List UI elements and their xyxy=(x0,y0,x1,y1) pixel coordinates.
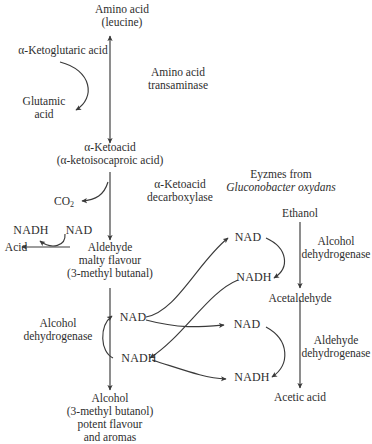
cofactor-nad-alcohol-branch: NAD xyxy=(120,311,147,324)
annotation-enzyme-source: Eyzmes from Gluconobacter oxydans xyxy=(206,168,356,194)
link-ethanol-nadh-to-left-nadh xyxy=(150,280,238,358)
metabolite-ketoglutaric-acid: α-Ketoglutaric acid xyxy=(18,44,107,57)
pathway-diagram: Amino acid (leucine) α-Ketoglutaric acid… xyxy=(0,0,372,444)
metabolite-glutamic-acid: Glutamic acid xyxy=(4,95,84,121)
cofactor-nadh-acetaldehyde-branch: NADH xyxy=(234,371,269,384)
metabolite-amino-acid: Amino acid (leucine) xyxy=(67,3,177,29)
metabolite-carbon-dioxide: CO2 xyxy=(54,195,74,210)
metabolite-aldehyde: Aldehyde malty flavour (3-methyl butanal… xyxy=(45,241,175,280)
cofactor-nad-acid-branch: NAD xyxy=(66,224,93,237)
link-left-nad-to-acetaldehyde-nad xyxy=(146,320,224,327)
enzyme-alcohol-dehydrogenase-right: Alcohol dehydrogenase xyxy=(300,235,372,261)
cofactor-nadh-alcohol-branch: NADH xyxy=(121,352,156,365)
cofactor-nad-acetaldehyde-branch: NAD xyxy=(234,318,261,331)
link-left-nadh-to-acetaldehyde-nadh xyxy=(152,360,226,379)
cofactor-nadh-acid-branch: NADH xyxy=(13,224,48,237)
arrow-co2-release xyxy=(82,182,108,201)
enzyme-amino-acid-transaminase: Amino acid transaminase xyxy=(126,66,230,92)
metabolite-acetaldehyde: Acetaldehyde xyxy=(268,292,331,305)
cofactor-nad-ethanol-branch: NAD xyxy=(235,231,262,244)
cofactor-nadh-ethanol-branch: NADH xyxy=(236,271,271,284)
metabolite-ethanol: Ethanol xyxy=(282,207,318,220)
metabolite-acetic-acid: Acetic acid xyxy=(274,391,326,404)
metabolite-alcohol: Alcohol (3-methyl butanol) potent flavou… xyxy=(35,392,185,444)
enzyme-alcohol-dehydrogenase-left: Alcohol dehydrogenase xyxy=(6,317,110,343)
enzyme-aldehyde-dehydrogenase-right: Aldehyde dehydrogenase xyxy=(300,334,372,360)
metabolite-acid: Acid xyxy=(5,241,27,254)
metabolite-ketoacid: α-Ketoacid (α-ketoisocaproic acid) xyxy=(20,141,200,167)
